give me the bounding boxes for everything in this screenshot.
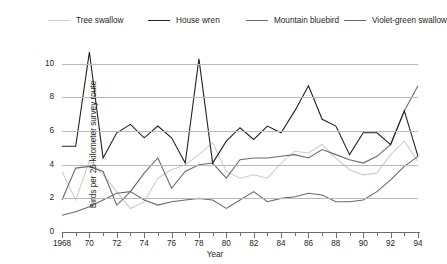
x-axis-tick-label: 88: [322, 239, 350, 248]
y-axis-title-wrap: Birds per 25-kilometer survey route: [70, 48, 84, 232]
x-axis-tick-label: 1968: [48, 239, 76, 248]
x-axis-tick-label: 86: [294, 239, 322, 248]
legend-item[interactable]: Violet-green swallow: [344, 12, 447, 28]
legend-label: Violet-green swallow: [372, 16, 447, 25]
x-axis-tick-major: [172, 233, 173, 238]
x-axis-tick-label: 74: [130, 239, 158, 248]
x-axis-tick-minor: [267, 233, 268, 236]
x-axis-tick-label: 90: [349, 239, 377, 248]
x-axis-tick-major: [391, 233, 392, 238]
x-axis-tick-minor: [158, 233, 159, 236]
x-axis-tick-major: [89, 233, 90, 238]
y-axis-tick-label: 8: [28, 92, 54, 101]
x-axis-tick-minor: [103, 233, 104, 236]
legend-line-icon: [246, 20, 268, 21]
x-axis-tick-major: [281, 233, 282, 238]
y-axis-title: Birds per 25-kilometer survey route: [89, 60, 98, 230]
legend-line-icon: [344, 20, 366, 21]
series-layer: [62, 47, 418, 232]
x-axis-tick-major: [418, 233, 419, 238]
gridline-y: [62, 131, 418, 132]
y-axis-tick-label: 10: [28, 59, 54, 68]
x-axis-tick-label: 94: [404, 239, 432, 248]
x-axis-tick-minor: [404, 233, 405, 236]
x-axis-tick-label: 72: [103, 239, 131, 248]
x-axis-tick-major: [363, 233, 364, 238]
gridline-y: [62, 97, 418, 98]
x-axis-title: Year: [0, 250, 430, 259]
x-axis-tick-minor: [185, 233, 186, 236]
x-axis-tick-label: 80: [212, 239, 240, 248]
x-axis-tick-minor: [130, 233, 131, 236]
x-axis-tick-major: [226, 233, 227, 238]
plot-area: [62, 47, 418, 232]
legend-item[interactable]: House wren: [148, 12, 220, 28]
x-axis-tick-minor: [377, 233, 378, 236]
x-axis-tick-minor: [213, 233, 214, 236]
gridline-y: [62, 198, 418, 199]
legend-line-icon: [48, 20, 70, 21]
legend-label: Mountain bluebird: [274, 16, 339, 25]
x-axis-tick-label: 76: [158, 239, 186, 248]
series-line: [62, 86, 418, 205]
gridline-y: [62, 64, 418, 65]
legend-label: House wren: [176, 16, 220, 25]
x-axis-tick-label: 78: [185, 239, 213, 248]
legend-item[interactable]: Tree swallow: [48, 12, 123, 28]
x-axis-tick-major: [144, 233, 145, 238]
y-axis-tick-label: 0: [28, 227, 54, 236]
x-axis-tick-label: 92: [377, 239, 405, 248]
x-axis-tick-minor: [76, 233, 77, 236]
gridline-y: [62, 165, 418, 166]
legend-line-icon: [148, 20, 170, 21]
x-axis-tick-minor: [350, 233, 351, 236]
legend-item[interactable]: Mountain bluebird: [246, 12, 339, 28]
x-axis-line: [62, 232, 420, 233]
legend-label: Tree swallow: [76, 16, 123, 25]
series-line: [62, 52, 418, 163]
x-axis-tick-major: [308, 233, 309, 238]
y-axis-tick-label: 2: [28, 193, 54, 202]
x-axis-tick-major: [117, 233, 118, 238]
x-axis-tick-label: 82: [240, 239, 268, 248]
y-axis-tick-label: 4: [28, 160, 54, 169]
chart-legend: Tree swallowHouse wrenMountain bluebirdV…: [0, 12, 430, 32]
x-axis-tick-minor: [295, 233, 296, 236]
x-axis-tick-label: 70: [75, 239, 103, 248]
x-axis-tick-major: [199, 233, 200, 238]
x-axis-tick-minor: [240, 233, 241, 236]
y-axis-tick-label: 6: [28, 126, 54, 135]
x-axis-tick-major: [336, 233, 337, 238]
x-axis-tick-label: 84: [267, 239, 295, 248]
x-axis-tick-major: [254, 233, 255, 238]
x-axis-tick-minor: [322, 233, 323, 236]
x-axis-tick-major: [62, 233, 63, 238]
